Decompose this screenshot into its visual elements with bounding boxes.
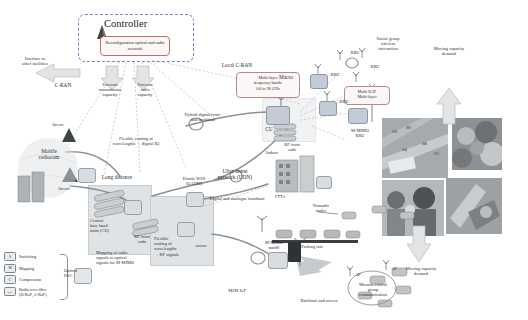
node-indoor-switch — [316, 176, 332, 189]
label-server-bottom: Server — [48, 186, 80, 191]
node-m-mimo-rru — [348, 108, 368, 124]
legend-key-mapping: M — [4, 264, 16, 273]
label-local-c-ran: Local C-RAN — [208, 62, 266, 68]
node-m-mimo-mmw — [268, 252, 288, 269]
node-optical-switch-left — [124, 200, 142, 215]
legend-text-radio-over-fiber: Radio over fiber (D-RoF, A-RoF) — [19, 287, 47, 297]
label-fttx: FTTx — [268, 194, 292, 199]
label-m2m-iot: M2M IoT — [220, 288, 254, 293]
label-rru-1: RRU — [326, 72, 344, 77]
label-backhaul-access: Backhaul and access — [284, 298, 354, 303]
label-digital-analogue-fronthaul: Digital and analogue fronthaul — [196, 196, 278, 201]
label-social-group: Social group wireless interaction — [364, 36, 412, 52]
controller-reconfiguration-text: Reconfiguration optical and radio networ… — [101, 37, 169, 51]
legend-text-switching: Switching — [19, 254, 36, 259]
label-m-mimo-rru: M-MIMO RRU — [342, 128, 378, 138]
node-flexible-routing — [177, 222, 195, 237]
label-ultra-dense-network: Ultra dense network (UDN) — [204, 168, 266, 181]
label-hybrid-digital: Hybrid digital front- and backhaul — [172, 112, 234, 122]
photo-crowd — [452, 118, 502, 170]
label-flexible-routing-rf: Flexible routing of wavelengths → RF sig… — [154, 236, 196, 257]
label-rru-2: RRU — [335, 99, 353, 104]
label-moving-capacity-demand-top: Moving capacity demand — [420, 46, 478, 56]
label-parking-lots: Parking lots — [288, 244, 336, 249]
node-macro-cu — [266, 106, 290, 125]
legend-key-radio-over-fiber: RoF — [4, 287, 16, 296]
label-central-baseband: Central base band units (CU) — [90, 218, 128, 234]
label-forecast-radio-capacity: Forecast radio capacity — [124, 82, 166, 98]
label-interface-other-facilities: Interface to other facilities — [6, 56, 64, 66]
legend-key-compression: C — [4, 275, 16, 284]
label-server-top: Server — [42, 122, 74, 127]
label-ap-2: AP — [386, 266, 402, 271]
label-rru-3: RRU — [346, 50, 364, 55]
multi-rat-text: Multi RAT Multi-layer — [345, 87, 389, 100]
label-mission-critical: Mission critical group communication — [348, 282, 398, 298]
controller-reconfiguration-box: Reconfiguration optical and radio networ… — [100, 36, 170, 56]
label-rru-4: RRU — [366, 64, 384, 69]
label-mapping-radio-optical: Mapping of radio signals to optical sign… — [96, 250, 158, 266]
legend-text-compression: Compression — [19, 277, 41, 282]
figure-canvas: Controller Reconfiguration optical and r… — [0, 0, 528, 320]
label-optical-dsc: Optical DSC — [64, 268, 90, 278]
photo-aerial-road — [382, 118, 448, 178]
label-ap-1: AP — [350, 272, 366, 277]
legend-text-mapping: Mapping — [19, 266, 34, 271]
photo-hand-device — [446, 178, 502, 234]
label-long-distance: Long distance — [86, 174, 148, 180]
photo-children — [382, 180, 444, 236]
label-flexible-routing-wavelengths: Flexible routing of wavelengths → digita… — [98, 136, 174, 146]
label-indoor: Indoor — [258, 150, 286, 155]
label-macro: Macro — [268, 74, 304, 80]
controller-title: Controller — [104, 18, 147, 29]
legend-key-switching: S — [4, 252, 16, 261]
label-c-ran: C-RAN — [46, 82, 80, 88]
label-nomadic-nodes: Nomadic nodes — [304, 203, 338, 213]
label-cu: CU — [260, 126, 278, 132]
label-m-mimo-mmw: M-MIMO mmW — [256, 240, 292, 250]
label-mobile-radiocom: Mobile radiocom — [22, 148, 76, 161]
